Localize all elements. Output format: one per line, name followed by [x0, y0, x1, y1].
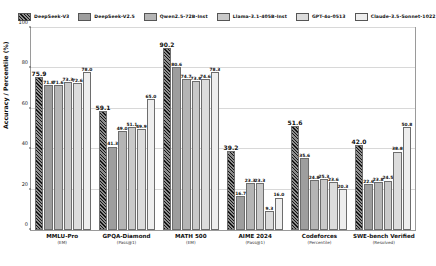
- bar[interactable]: 51.1: [128, 127, 137, 230]
- legend-item-3[interactable]: Llama-3.1-405B-Inst: [217, 13, 287, 21]
- legend-label: Qwen2.5-72B-Inst: [160, 14, 208, 19]
- bar[interactable]: 23.3: [246, 183, 255, 230]
- x-axis-category-name: MMLU-Pro: [30, 233, 94, 239]
- bar[interactable]: 74.6: [201, 79, 210, 230]
- bar-value-label: 20.3: [338, 185, 349, 189]
- bar[interactable]: 24.8: [310, 180, 319, 230]
- bar-slot: 74.7: [182, 28, 191, 230]
- bar-slot: 51.1: [128, 28, 137, 230]
- bar[interactable]: 39.2: [227, 151, 236, 230]
- x-axis-category-metric: (EM): [30, 241, 94, 245]
- bar-slot: 35.6: [300, 28, 309, 230]
- x-axis-category-name: Codeforces: [287, 233, 351, 239]
- legend-label: GPT-4o-0513: [312, 14, 346, 19]
- bar-slot: 72.6: [73, 28, 82, 230]
- y-axis-tick-label: 60: [22, 100, 28, 106]
- x-axis-category-name: GPQA-Diamond: [94, 233, 158, 239]
- bar-slot: 49.0: [118, 28, 127, 230]
- bar[interactable]: 80.6: [172, 67, 181, 230]
- x-axis-category-metric: (Resolved): [352, 241, 416, 245]
- bar-slot: 74.6: [201, 28, 210, 230]
- legend-item-1[interactable]: DeepSeek-V2.5: [78, 13, 135, 21]
- bar-slot: 71.8: [44, 28, 53, 230]
- bar-value-label: 9.3: [266, 207, 274, 211]
- bar-slot: 16.0: [275, 28, 284, 230]
- bar-slot: 23.3: [246, 28, 255, 230]
- bar-value-label: 80.6: [171, 63, 182, 67]
- bar-slot: 25.3: [320, 28, 329, 230]
- x-axis-category-metric: (Percentile): [287, 241, 351, 245]
- bar[interactable]: 49.0: [118, 131, 127, 230]
- bar[interactable]: 35.6: [300, 158, 309, 230]
- bar[interactable]: 73.8: [192, 81, 201, 230]
- bar[interactable]: 23.3: [256, 183, 265, 230]
- legend-item-4[interactable]: GPT-4o-0513: [296, 13, 346, 21]
- bar[interactable]: 23.8: [374, 182, 383, 230]
- x-axis-group-label-1: GPQA-Diamond(Pass@1): [94, 233, 158, 263]
- bar-slot: 59.1: [99, 28, 108, 230]
- legend-swatch-icon: [217, 13, 230, 21]
- bar-slot: 24.5: [384, 28, 393, 230]
- bar-value-label: 35.6: [299, 154, 310, 158]
- legend-swatch-icon: [355, 13, 368, 21]
- bar-slot: 49.9: [137, 28, 146, 230]
- bar[interactable]: 78.3: [211, 72, 220, 230]
- bar[interactable]: 90.2: [163, 48, 172, 230]
- bar[interactable]: 51.6: [291, 126, 300, 230]
- bar[interactable]: 50.8: [403, 127, 412, 230]
- bar[interactable]: 41.3: [108, 147, 117, 230]
- bar[interactable]: 59.1: [99, 111, 108, 230]
- legend-item-2[interactable]: Qwen2.5-72B-Inst: [144, 13, 208, 21]
- bar[interactable]: 65.0: [147, 99, 156, 230]
- bar[interactable]: 20.3: [339, 189, 348, 230]
- bar-slot: 73.8: [192, 28, 201, 230]
- x-axis-group-label-3: AIME 2024(Pass@1): [223, 233, 287, 263]
- bar-value-label: 78.0: [82, 68, 93, 72]
- bar-slot: 50.8: [403, 28, 412, 230]
- bar[interactable]: 16.0: [275, 198, 284, 230]
- legend-label: Llama-3.1-405B-Inst: [233, 14, 287, 19]
- bar-slot: 65.0: [147, 28, 156, 230]
- bar[interactable]: 16.7: [236, 196, 245, 230]
- bar-group-1: 59.141.349.051.149.965.0: [95, 28, 159, 230]
- bar-slot: 39.2: [227, 28, 236, 230]
- bar-slot: 90.2: [163, 28, 172, 230]
- bar-value-label: 16.0: [274, 193, 285, 197]
- chart-legend: DeepSeek-V3DeepSeek-V2.5Qwen2.5-72B-Inst…: [18, 9, 418, 24]
- bar-value-label: 49.0: [117, 127, 128, 131]
- bar[interactable]: 9.3: [265, 211, 274, 230]
- y-axis-tick-label: 80: [22, 59, 28, 65]
- bar-slot: 9.3: [265, 28, 274, 230]
- y-axis-tick-label: 100: [18, 19, 28, 25]
- bar[interactable]: 42.0: [355, 145, 364, 230]
- bar-groups: 75.971.871.673.372.678.059.141.349.051.1…: [31, 28, 415, 230]
- legend-swatch-icon: [144, 13, 157, 21]
- bar[interactable]: 25.3: [320, 179, 329, 230]
- bar-value-label: 74.6: [200, 75, 211, 79]
- bar[interactable]: 38.8: [393, 152, 402, 230]
- bar-slot: 23.8: [374, 28, 383, 230]
- bar-group-2: 90.280.674.773.874.678.3: [159, 28, 223, 230]
- legend-swatch-icon: [78, 13, 91, 21]
- bar[interactable]: 72.6: [73, 83, 82, 230]
- bar[interactable]: 78.0: [83, 72, 92, 230]
- bar[interactable]: 71.8: [44, 85, 53, 230]
- legend-item-5[interactable]: Claude-3.5-Sonnet-1022: [355, 13, 436, 21]
- bar[interactable]: 49.9: [137, 129, 146, 230]
- bar[interactable]: 74.7: [182, 79, 191, 230]
- bar-slot: 16.7: [236, 28, 245, 230]
- bar-slot: 38.8: [393, 28, 402, 230]
- x-axis-labels: MMLU-Pro(EM)GPQA-Diamond(Pass@1)MATH 500…: [30, 233, 416, 263]
- bar[interactable]: 73.3: [64, 82, 73, 230]
- bar-value-label: 23.6: [328, 178, 339, 182]
- bar[interactable]: 75.9: [35, 77, 44, 230]
- legend-label: Claude-3.5-Sonnet-1022: [371, 14, 436, 19]
- x-axis-category-metric: (Pass@1): [223, 241, 287, 245]
- bar[interactable]: 22.6: [364, 184, 373, 230]
- bar[interactable]: 23.6: [329, 182, 338, 230]
- bar[interactable]: 24.5: [384, 181, 393, 230]
- bar[interactable]: 71.6: [54, 85, 63, 230]
- bar-slot: 42.0: [355, 28, 364, 230]
- bar-value-label: 24.5: [382, 176, 393, 180]
